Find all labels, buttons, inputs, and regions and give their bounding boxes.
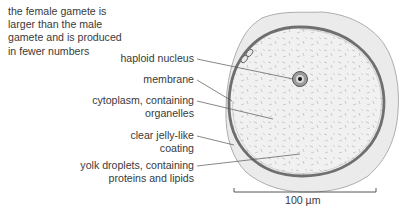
egg-cell-diagram — [0, 0, 416, 219]
scale-bar-label: 100 µm — [285, 194, 321, 206]
nucleolus — [298, 77, 302, 81]
